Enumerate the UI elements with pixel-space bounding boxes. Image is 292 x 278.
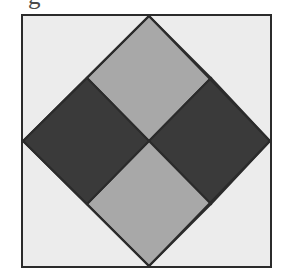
figure-root: g (0, 0, 292, 278)
figure-plate (21, 14, 272, 268)
caption-text-fragment: g (28, 0, 62, 9)
figure-diagram (21, 14, 272, 268)
caption-fragment-glyph: g (28, 0, 62, 8)
